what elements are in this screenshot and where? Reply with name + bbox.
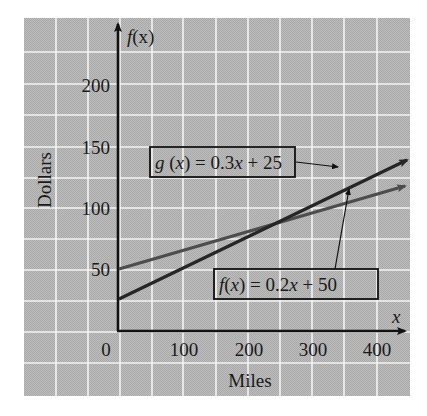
x-axis-name: x [391, 306, 401, 327]
y-tick-100: 100 [82, 198, 111, 219]
y-tick-150: 150 [82, 137, 111, 158]
y-tick-50: 50 [91, 259, 110, 280]
x-tick-100: 100 [170, 339, 199, 360]
f-equation-label: f(x) = 0.2x + 50 [219, 274, 337, 296]
y-axis-title: Dollars [34, 152, 55, 208]
g-equation-label: g (x) = 0.3x + 25 [155, 152, 282, 174]
line-chart: f(x) x 200 150 100 50 0 100 200 300 400 … [0, 0, 427, 416]
y-axis-name: f(x) [127, 26, 154, 48]
y-tick-200: 200 [82, 75, 111, 96]
x-tick-0: 0 [101, 339, 111, 360]
x-tick-200: 200 [235, 339, 264, 360]
x-axis-title: Miles [228, 370, 271, 391]
x-tick-400: 400 [363, 339, 392, 360]
x-tick-300: 300 [299, 339, 328, 360]
